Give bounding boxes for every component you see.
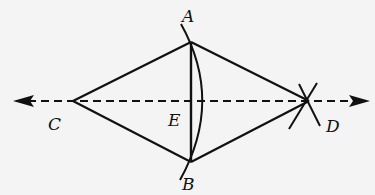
arrow-right-icon	[349, 95, 370, 107]
segment-ca	[73, 42, 191, 101]
geometry-diagram: A B C D E	[0, 0, 375, 195]
segment-bd	[191, 101, 309, 162]
segment-ad	[191, 42, 309, 101]
label-c: C	[48, 114, 61, 134]
label-a: A	[180, 6, 194, 26]
label-d: D	[325, 116, 340, 136]
label-b: B	[181, 174, 195, 194]
label-e: E	[167, 110, 181, 130]
